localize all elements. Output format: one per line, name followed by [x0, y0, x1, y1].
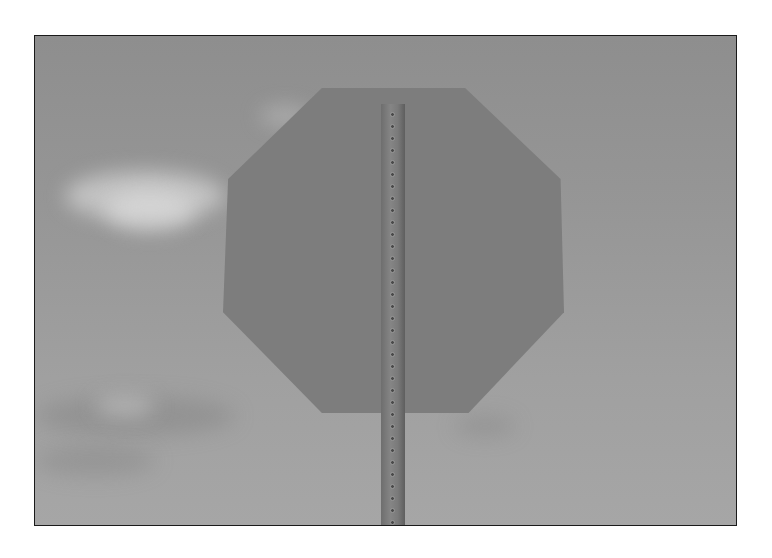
- post-hole: [390, 220, 395, 225]
- post-hole: [390, 268, 395, 273]
- post-hole: [390, 124, 395, 129]
- post-hole: [390, 112, 395, 117]
- post-hole: [390, 412, 395, 417]
- post-hole: [390, 508, 395, 513]
- post-hole: [390, 184, 395, 189]
- post-hole: [390, 520, 395, 525]
- cloud: [95, 396, 155, 416]
- cloud: [105, 191, 195, 231]
- post-hole: [390, 196, 395, 201]
- post-hole: [390, 160, 395, 165]
- post-hole: [390, 388, 395, 393]
- post-hole: [390, 280, 395, 285]
- post-hole: [390, 340, 395, 345]
- post-hole: [390, 496, 395, 501]
- post-hole: [390, 376, 395, 381]
- post-hole: [390, 424, 395, 429]
- post-hole: [390, 256, 395, 261]
- post-hole: [390, 148, 395, 153]
- post-hole: [390, 484, 395, 489]
- post-hole: [390, 172, 395, 177]
- post-hole: [390, 136, 395, 141]
- post-hole: [390, 208, 395, 213]
- post-hole: [390, 352, 395, 357]
- post-hole: [390, 364, 395, 369]
- post-hole: [390, 436, 395, 441]
- post-hole: [390, 328, 395, 333]
- post-hole: [390, 304, 395, 309]
- post-holes: [390, 112, 396, 526]
- post-hole: [390, 448, 395, 453]
- post-hole: [390, 232, 395, 237]
- cloud: [455, 416, 515, 436]
- sign-post: [381, 104, 405, 526]
- post-hole: [390, 460, 395, 465]
- post-hole: [390, 400, 395, 405]
- post-hole: [390, 472, 395, 477]
- post-hole: [390, 316, 395, 321]
- post-hole: [390, 292, 395, 297]
- post-hole: [390, 244, 395, 249]
- photo: [34, 35, 737, 526]
- cloud: [35, 446, 155, 476]
